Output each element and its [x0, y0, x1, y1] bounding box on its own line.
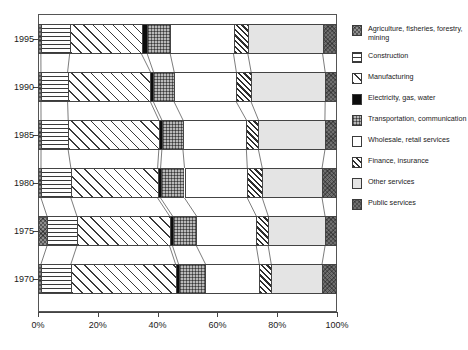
bar-row-1970	[38, 264, 337, 294]
bar-segment	[256, 216, 268, 246]
bar-segment	[322, 264, 337, 294]
bar-row-1985	[38, 120, 337, 150]
legend-item-label: Wholesale, retail services	[368, 135, 450, 144]
bars-layer	[38, 14, 337, 312]
bar-segment	[70, 24, 142, 54]
dark-crosshatch-swatch-icon	[352, 25, 362, 36]
x-tick	[158, 312, 159, 317]
solid-black-swatch-icon	[352, 94, 362, 105]
bar-segment	[41, 120, 68, 150]
legend-item[interactable]: Transportation, communication	[352, 114, 468, 126]
legend-item[interactable]: Finance, insurance	[352, 156, 468, 168]
legend-item-label: Other services	[368, 177, 414, 186]
checker-swatch-icon	[352, 115, 362, 126]
bar-segment	[268, 216, 325, 246]
x-tick-label: 60%	[197, 320, 237, 330]
x-tick-label: 40%	[138, 320, 178, 330]
legend-item-label: Finance, insurance	[368, 156, 429, 165]
bar-segment	[161, 168, 185, 198]
bar-segment	[325, 120, 337, 150]
bar-segment	[71, 264, 176, 294]
bar-row-1975	[38, 216, 337, 246]
legend-item-label: Transportation, communication	[368, 114, 466, 123]
bar-segment	[147, 24, 170, 54]
legend-item[interactable]: Construction	[352, 51, 468, 63]
bar-segment	[38, 216, 47, 246]
x-tick	[277, 312, 278, 317]
bar-segment	[247, 168, 262, 198]
bar-segment	[41, 264, 71, 294]
bar-segment	[325, 72, 337, 102]
y-tick-label-1985: 1985	[4, 130, 34, 140]
bar-segment	[322, 168, 337, 198]
legend-item[interactable]: Other services	[352, 177, 468, 189]
bar-segment	[68, 72, 151, 102]
x-tick-label: 0%	[18, 320, 58, 330]
legend-item-label: Electricity, gas, water	[368, 93, 435, 102]
bar-segment	[246, 120, 258, 150]
dark-gray-swatch-icon	[352, 199, 362, 210]
y-tick-label-1995: 1995	[4, 34, 34, 44]
bar-segment	[205, 264, 259, 294]
stacked-bar-chart: 0%20%40%60%80%100% 199519901985198019751…	[0, 0, 468, 350]
y-tick-label-1975: 1975	[4, 226, 34, 236]
diagonal-lines-swatch-icon	[352, 73, 362, 84]
bar-segment	[262, 168, 322, 198]
x-tick	[98, 312, 99, 317]
y-tick-label-1980: 1980	[4, 178, 34, 188]
bar-segment	[234, 24, 248, 54]
bar-segment	[248, 24, 323, 54]
bar-segment	[271, 264, 322, 294]
dotted-swatch-icon	[352, 178, 362, 189]
legend: Agriculture, fisheries, forestry, mining…	[352, 24, 468, 219]
white-swatch-icon	[352, 136, 362, 147]
y-tick-label-1990: 1990	[4, 82, 34, 92]
bar-segment	[41, 168, 71, 198]
legend-item-label: Public services	[368, 198, 416, 207]
x-tick-label: 80%	[257, 320, 297, 330]
legend-item[interactable]: Manufacturing	[352, 72, 468, 84]
y-tick-label-1970: 1970	[4, 274, 34, 284]
bar-segment	[251, 72, 325, 102]
dense-hatch-swatch-icon	[352, 157, 362, 168]
legend-item-label: Construction	[368, 51, 408, 60]
bar-segment	[174, 72, 236, 102]
bar-segment	[183, 120, 246, 150]
legend-item-label: Manufacturing	[368, 72, 414, 81]
x-tick-label: 20%	[78, 320, 118, 330]
bar-segment	[236, 72, 251, 102]
bar-segment	[41, 72, 68, 102]
bar-segment	[153, 72, 174, 102]
bar-segment	[196, 216, 256, 246]
x-axis	[38, 312, 337, 313]
bar-segment	[71, 168, 158, 198]
bar-row-1990	[38, 72, 337, 102]
bar-segment	[173, 216, 197, 246]
bar-segment	[47, 216, 77, 246]
bar-segment	[162, 120, 183, 150]
bar-segment	[323, 24, 337, 54]
bar-segment	[325, 216, 337, 246]
bar-segment	[170, 24, 233, 54]
bar-row-1995	[38, 24, 337, 54]
legend-item[interactable]: Electricity, gas, water	[352, 93, 468, 105]
x-tick	[38, 312, 39, 317]
x-tick	[337, 312, 338, 317]
x-tick	[217, 312, 218, 317]
x-tick-label: 100%	[317, 320, 357, 330]
legend-item[interactable]: Agriculture, fisheries, forestry, mining	[352, 24, 468, 42]
bar-row-1980	[38, 168, 337, 198]
bar-segment	[68, 120, 159, 150]
bar-segment	[77, 216, 170, 246]
bar-segment	[179, 264, 206, 294]
bar-segment	[41, 24, 70, 54]
bar-segment	[259, 264, 271, 294]
legend-item[interactable]: Public services	[352, 198, 468, 210]
bar-segment	[258, 120, 324, 150]
bar-segment	[185, 168, 248, 198]
horizontal-lines-swatch-icon	[352, 52, 362, 63]
legend-item-label: Agriculture, fisheries, forestry, mining	[368, 24, 468, 42]
legend-item[interactable]: Wholesale, retail services	[352, 135, 468, 147]
